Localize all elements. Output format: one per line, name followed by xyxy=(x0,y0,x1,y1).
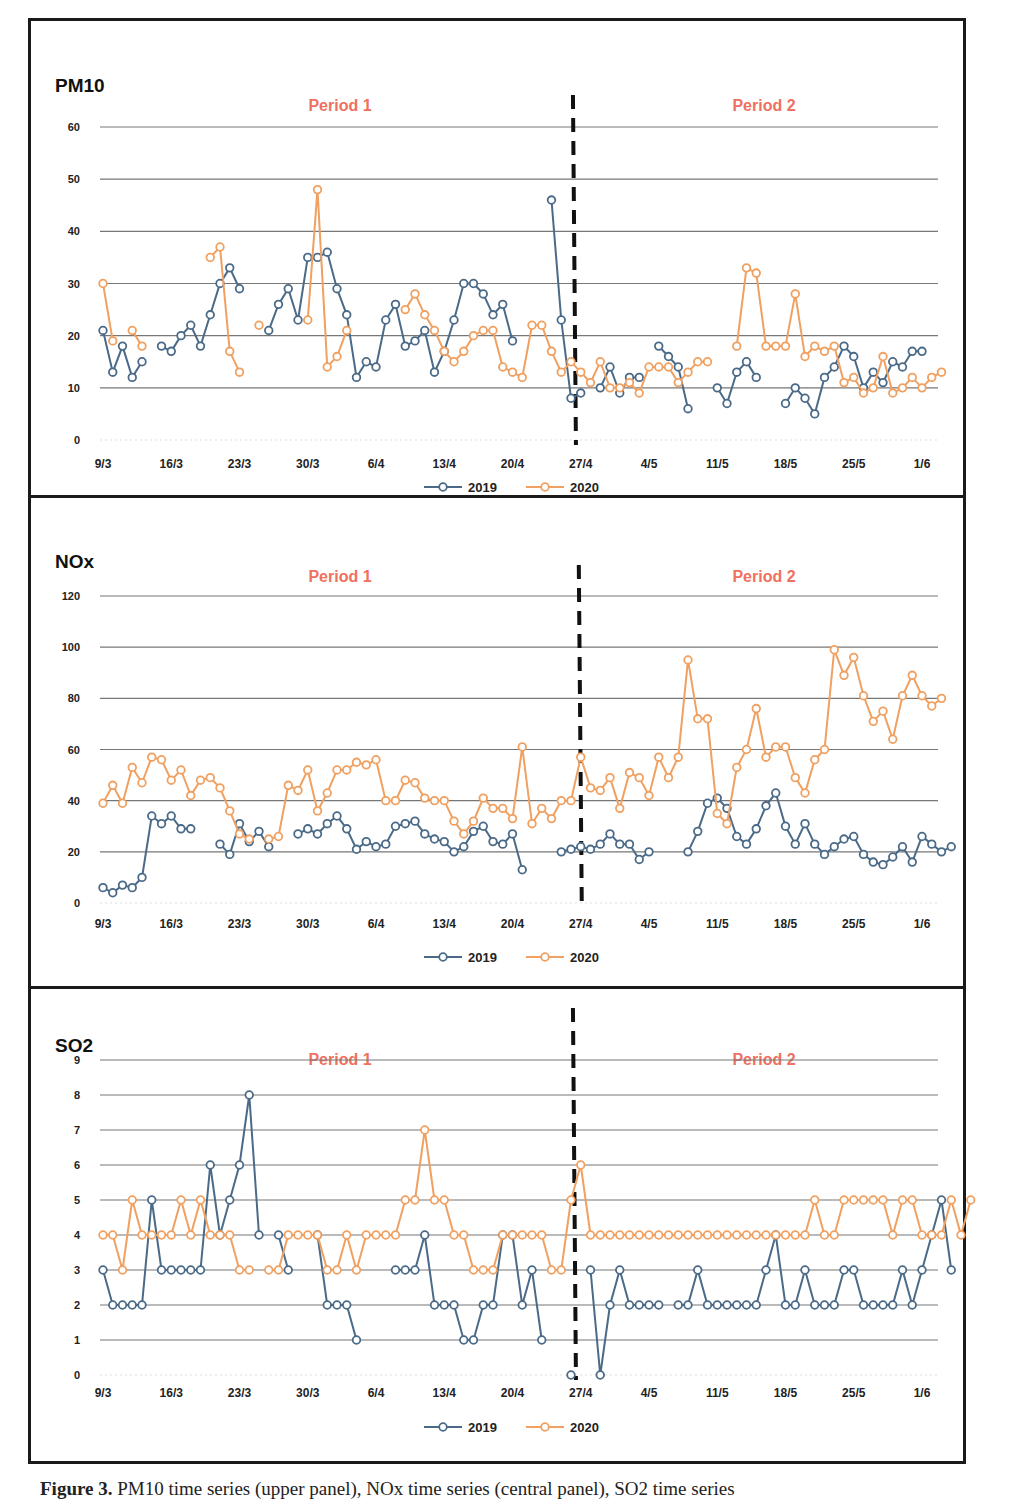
data-point xyxy=(304,1231,312,1239)
data-point xyxy=(791,774,799,782)
data-point xyxy=(158,756,166,764)
x-tick-label: 27/4 xyxy=(569,457,593,471)
data-point xyxy=(323,1266,331,1274)
data-point xyxy=(421,327,429,335)
data-point xyxy=(694,1266,702,1274)
data-point xyxy=(245,1266,253,1274)
data-point xyxy=(723,400,731,408)
data-point xyxy=(333,766,341,774)
data-point xyxy=(372,843,380,851)
data-point xyxy=(138,1231,146,1239)
data-point xyxy=(645,363,653,371)
nox-chart-panel: NOxPeriod 1Period 20204060801001209/316/… xyxy=(0,495,1014,986)
data-point xyxy=(401,820,409,828)
data-point xyxy=(362,761,370,769)
data-point xyxy=(577,368,585,376)
legend-label: 2019 xyxy=(468,480,497,495)
data-point xyxy=(245,1091,253,1099)
data-point xyxy=(704,799,712,807)
data-point xyxy=(733,833,741,841)
data-point xyxy=(528,820,536,828)
data-point xyxy=(567,1196,575,1204)
data-point xyxy=(109,782,117,790)
data-point xyxy=(167,1266,175,1274)
data-point xyxy=(479,327,487,335)
data-point xyxy=(197,1266,205,1274)
data-point xyxy=(645,1231,653,1239)
data-point xyxy=(148,1196,156,1204)
x-tick-label: 16/3 xyxy=(160,917,184,931)
data-point xyxy=(830,646,838,654)
data-point xyxy=(869,368,877,376)
data-point xyxy=(518,866,526,874)
data-point xyxy=(431,835,439,843)
data-point xyxy=(206,311,214,319)
data-point xyxy=(411,1266,419,1274)
data-point xyxy=(382,316,390,324)
data-point xyxy=(255,828,263,836)
data-point xyxy=(860,692,868,700)
data-point xyxy=(206,254,214,262)
data-point xyxy=(538,1231,546,1239)
period-divider-line xyxy=(579,565,582,908)
data-point xyxy=(226,348,234,356)
data-point xyxy=(284,782,292,790)
y-tick-label: 0 xyxy=(74,897,80,909)
data-point xyxy=(343,766,351,774)
data-point xyxy=(470,332,478,340)
data-point xyxy=(596,358,604,366)
data-point xyxy=(479,794,487,802)
data-point xyxy=(460,280,468,288)
data-point xyxy=(626,840,634,848)
data-point xyxy=(138,779,146,787)
data-point xyxy=(938,1196,946,1204)
data-point xyxy=(343,311,351,319)
data-point xyxy=(177,825,185,833)
x-tick-label: 6/4 xyxy=(368,917,385,931)
data-point xyxy=(304,825,312,833)
data-point xyxy=(791,384,799,392)
x-tick-label: 4/5 xyxy=(641,1386,658,1400)
x-tick-label: 4/5 xyxy=(641,917,658,931)
data-point xyxy=(226,264,234,272)
data-point xyxy=(762,342,770,350)
data-point xyxy=(908,858,916,866)
caption-label: Figure 3. xyxy=(40,1478,112,1499)
data-point xyxy=(674,1301,682,1309)
data-point xyxy=(869,858,877,866)
data-point xyxy=(450,358,458,366)
data-point xyxy=(460,1336,468,1344)
data-point xyxy=(177,332,185,340)
data-point xyxy=(869,718,877,726)
y-tick-label: 100 xyxy=(62,641,80,653)
data-point xyxy=(772,1231,780,1239)
data-point xyxy=(811,840,819,848)
data-point xyxy=(343,825,351,833)
data-point xyxy=(674,1231,682,1239)
period-2-label: Period 2 xyxy=(732,568,795,585)
data-point xyxy=(752,1231,760,1239)
data-point xyxy=(645,792,653,800)
data-point xyxy=(889,1301,897,1309)
data-point xyxy=(704,1231,712,1239)
data-point xyxy=(421,1126,429,1134)
data-point xyxy=(294,316,302,324)
data-point xyxy=(382,840,390,848)
data-point xyxy=(236,1161,244,1169)
data-point xyxy=(908,348,916,356)
data-point xyxy=(333,1266,341,1274)
data-point xyxy=(606,1231,614,1239)
data-point xyxy=(674,379,682,387)
data-point xyxy=(489,327,497,335)
data-point xyxy=(782,1301,790,1309)
data-point xyxy=(704,715,712,723)
data-point xyxy=(138,358,146,366)
data-point xyxy=(743,358,751,366)
data-point xyxy=(216,840,224,848)
data-point xyxy=(518,743,526,751)
data-point xyxy=(372,363,380,371)
x-tick-label: 9/3 xyxy=(95,457,112,471)
data-point xyxy=(665,353,673,361)
data-point xyxy=(138,342,146,350)
data-point xyxy=(752,269,760,277)
